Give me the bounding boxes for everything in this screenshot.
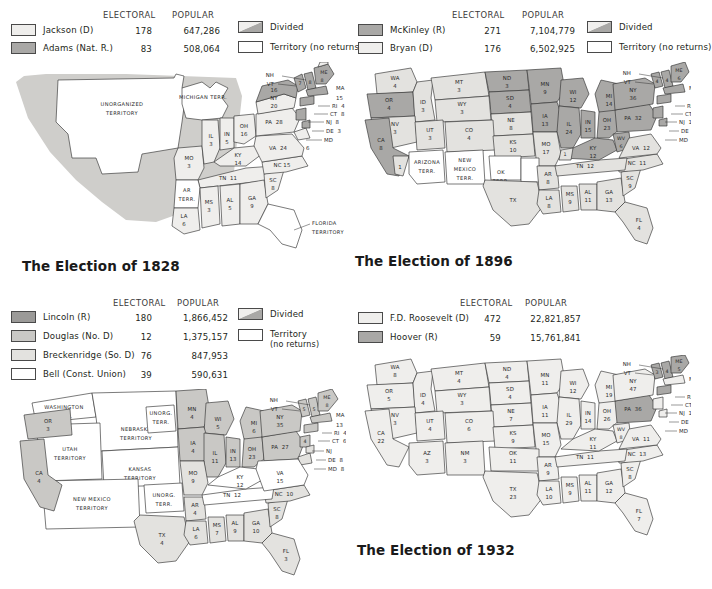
state-ne-1932: [491, 403, 533, 427]
label-de-1896: DE 3: [681, 128, 691, 134]
legend-header-popular-1860: POPULAR: [177, 298, 219, 308]
label-nd-votes-1932: 4: [505, 374, 509, 380]
label-ms-votes-1860: 7: [215, 530, 219, 536]
label-mi-votes-1932: 19: [605, 392, 613, 398]
label-ky-abbr: KY: [235, 152, 242, 158]
state-fl-1896: [615, 202, 653, 244]
label-md-votes: 6: [306, 145, 310, 151]
label-in-votes-1860: 13: [229, 456, 236, 462]
label-wv-votes-1896: 6: [619, 144, 622, 149]
state-ct-1932: [657, 385, 671, 395]
label-id-abbr-1932: ID: [420, 392, 426, 398]
label-new-mexico-territory-1860: NEW MEXICO: [73, 496, 111, 502]
legend-row-divided: Divided: [238, 20, 304, 34]
label-mn-votes-1932: 11: [541, 380, 548, 386]
label-wa-votes-1932: 8: [393, 372, 397, 378]
label-fl-abbr-1932: FL: [636, 508, 642, 514]
swatch-breckenridge: [11, 349, 36, 361]
label-pa-abbr-1860: PA 27: [271, 444, 288, 450]
label-tn-abbr-1860: TN 12: [222, 492, 241, 498]
legend-row-lincoln: Lincoln (R): [11, 310, 91, 324]
label-me-votes: 8: [320, 78, 323, 83]
label-sd-abbr-1932: SD: [506, 386, 514, 392]
label-nh-votes: 8: [308, 80, 311, 85]
legend-row-territory-1896: Territory (no returns): [587, 40, 712, 54]
legend-row-territory-1860: Territory (no returns): [238, 329, 319, 343]
label-utah-territory-1860: UTAH: [62, 446, 77, 452]
label-wa-votes-1896: 4: [393, 83, 397, 89]
label-sc-votes-1860: 8: [275, 514, 279, 520]
state-unorg-terr-south-1860: [144, 483, 184, 513]
label-ny-abbr: NY: [270, 95, 278, 101]
label-nv-abbr-1932: NV: [391, 412, 399, 418]
state-tx-1860: [134, 515, 190, 563]
legend-label-lincoln: Lincoln (R): [43, 312, 91, 322]
label-fl-abbr-1896: FL: [636, 217, 642, 223]
label-la-votes-1932: 10: [545, 494, 553, 500]
label-mo-abbr-1896: MO: [541, 141, 550, 147]
label-unorg-terr-south-2-1860: TERR.: [155, 501, 173, 507]
label-id-abbr-1896: ID: [420, 99, 426, 105]
label-tx-votes-1932: 23: [509, 494, 516, 500]
label-ne-abbr-1932: NE: [507, 408, 515, 414]
label-utah-territory-2-1860: TERRITORY: [53, 455, 86, 461]
label-tx-votes-1860: 4: [160, 540, 164, 546]
label-ar-terr: AR: [183, 187, 191, 193]
legend-popular-hoover: 15,761,841: [515, 333, 581, 343]
label-sc-abbr: SC: [269, 177, 277, 183]
legend-popular-roosevelt: 22,821,857: [515, 314, 581, 324]
label-ma-1932: MA 17: [689, 376, 691, 382]
label-la-abbr-1860: LA: [192, 526, 199, 532]
label-ar-abbr-1932: AR: [544, 462, 552, 468]
swatch-bryan: [358, 42, 383, 54]
label-in-votes-1896: 15: [584, 127, 591, 133]
label-ne-abbr-1896: NE: [507, 117, 515, 123]
label-id-votes-1896: 3: [421, 107, 425, 113]
label-new-mexico-territory-2-1860: TERRITORY: [75, 505, 108, 511]
legend-row-roosevelt: F.D. Roosevelt (D): [358, 311, 469, 325]
label-ct-1932: CT 7: [685, 402, 691, 408]
label-mn-abbr-1896: MN: [541, 81, 550, 87]
state-michigan-terr: [182, 82, 228, 120]
state-il-1932: [557, 397, 581, 439]
label-la-abbr-1896: LA: [545, 195, 552, 201]
label-ms-votes: 3: [207, 207, 211, 213]
state-fl-1932: [615, 493, 653, 535]
label-nh-votes-1896: 4: [665, 78, 668, 83]
label-va-abbr-1896: VA 12: [632, 145, 650, 151]
state-arizona-terr-1896: [409, 150, 445, 184]
label-nc-abbr-1932: NC 13: [628, 451, 647, 457]
label-pa-abbr-1932: PA 36: [624, 406, 642, 412]
label-ar-abbr-1860: AR: [191, 502, 199, 508]
label-nebraska-territory-1860: NEBRASKA: [121, 426, 152, 432]
legend-electoral-hoover: 59: [473, 333, 501, 343]
label-sd-abbr-1896: SD: [506, 95, 514, 101]
label-vt-votes-1896: 4: [655, 79, 658, 84]
legend-label-roosevelt: F.D. Roosevelt (D): [390, 313, 469, 323]
label-ia-abbr-1932: IA: [542, 404, 548, 410]
label-ut-abbr-1896: UT: [426, 127, 434, 133]
label-me-abbr-1896: ME: [675, 68, 682, 73]
state-sc-1932: [621, 459, 641, 487]
label-md-1860: MD 8: [328, 466, 345, 472]
label-va-abbr-1932: VA 11: [632, 436, 650, 442]
swatch-adams: [11, 42, 36, 54]
label-ia-votes-1896: 13: [541, 121, 548, 127]
label-fl-votes-1896: 4: [637, 225, 641, 231]
label-al-abbr-1932: AL: [585, 480, 592, 486]
label-md-1896: MD 8: [679, 137, 691, 143]
legend-1932: ELECTORAL POPULAR F.D. Roosevelt (D) 472…: [347, 285, 693, 355]
label-az-votes-1932: 3: [425, 458, 429, 464]
label-wi-abbr-1860: WI: [214, 416, 221, 422]
label-ky-divided-votes-1896: 1: [563, 152, 566, 157]
legend-label-territory-line2-1860: (no returns): [270, 340, 319, 349]
label-ct: CT 8: [330, 111, 345, 117]
legend-label-divided-1896: Divided: [619, 22, 653, 32]
label-mn-abbr-1860: MN: [188, 406, 197, 412]
label-nh-abbr-1860b: NH: [270, 397, 278, 403]
label-ms-abbr: MS: [205, 199, 214, 205]
state-la-1932: [537, 481, 561, 505]
label-sc-votes: 8: [271, 185, 275, 191]
label-nh-votes-1932: 4: [665, 369, 668, 374]
label-ms-abbr-1932: MS: [566, 482, 575, 488]
